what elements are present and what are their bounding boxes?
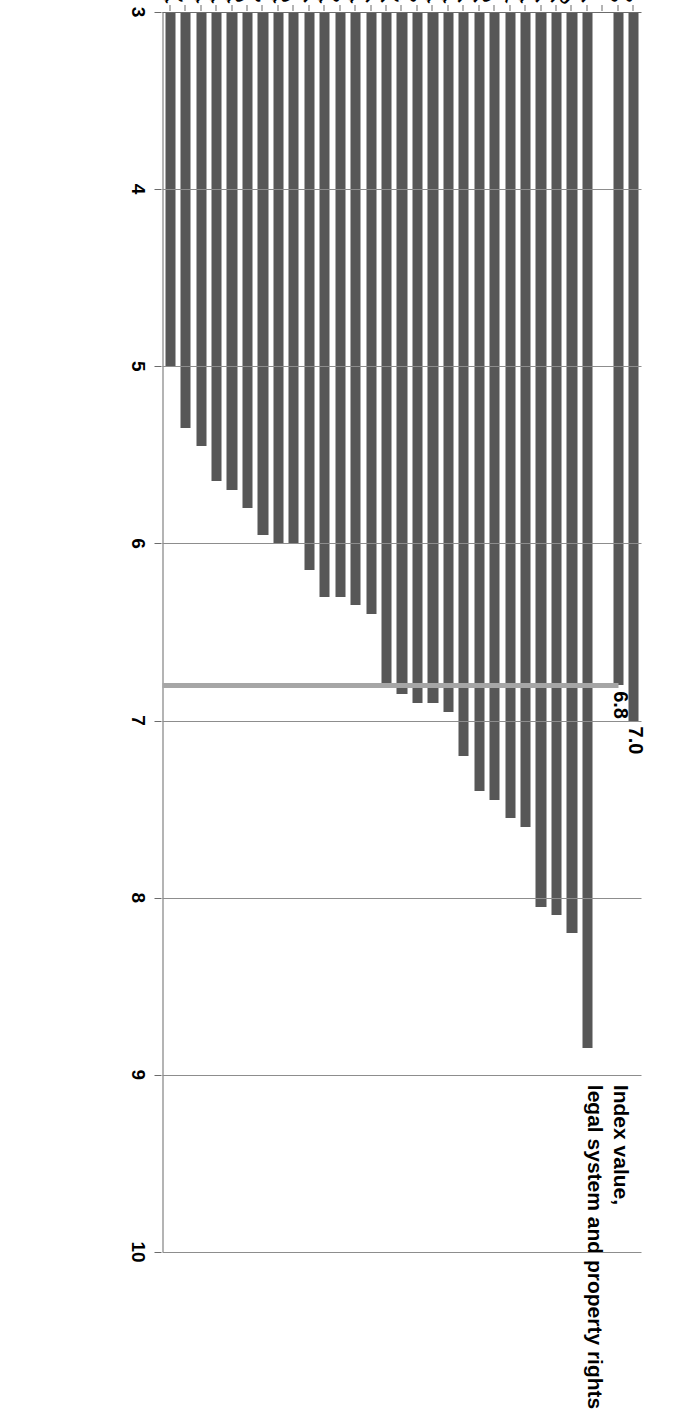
bar[interactable] — [350, 12, 360, 605]
bar-row — [304, 12, 314, 1252]
bar-row — [319, 12, 329, 1252]
bar[interactable] — [273, 12, 283, 543]
bar[interactable] — [304, 12, 314, 570]
bar[interactable] — [505, 12, 515, 818]
bar[interactable] — [335, 12, 345, 597]
bar[interactable] — [613, 12, 623, 685]
category-tick-mark — [339, 5, 340, 11]
gridline — [162, 1075, 641, 1076]
category-tick-mark — [416, 5, 417, 11]
category-tick-mark — [431, 5, 432, 11]
bar-row — [288, 12, 298, 1252]
category-tick-mark — [555, 5, 556, 11]
bar[interactable] — [535, 12, 545, 907]
bar-row — [226, 12, 236, 1252]
category-tick-mark — [292, 5, 293, 11]
category-tick-mark — [447, 5, 448, 11]
bar-row — [474, 12, 484, 1252]
bar-row — [165, 12, 175, 1252]
value-tick-label: 7 — [126, 701, 148, 741]
bar[interactable] — [474, 12, 484, 791]
gridline — [162, 366, 641, 367]
category-tick-mark — [509, 5, 510, 11]
bar-row — [196, 12, 206, 1252]
value-tick-mark — [154, 189, 161, 190]
bar-row — [335, 12, 345, 1252]
bar-row — [458, 12, 468, 1252]
bar[interactable] — [196, 12, 206, 446]
bar-row — [257, 12, 267, 1252]
category-axis-line — [162, 12, 163, 1252]
bar-row — [211, 12, 221, 1252]
value-tick-mark — [154, 898, 161, 899]
category-tick-mark — [586, 5, 587, 11]
category-tick-mark — [493, 5, 494, 11]
reference-line — [162, 683, 618, 688]
value-tick-mark — [154, 1075, 161, 1076]
bar[interactable] — [566, 12, 576, 933]
plot-area — [162, 12, 641, 1252]
bar[interactable] — [458, 12, 468, 756]
gridline — [162, 1252, 641, 1253]
category-tick-mark — [370, 5, 371, 11]
bar[interactable] — [396, 12, 406, 694]
bar[interactable] — [366, 12, 376, 614]
gridline — [162, 189, 641, 190]
bar[interactable] — [319, 12, 329, 597]
bar-row — [427, 12, 437, 1252]
bar-row — [628, 12, 638, 1252]
bar-row — [520, 12, 530, 1252]
bar[interactable] — [443, 12, 453, 712]
bar-data-label: 6.8 — [608, 691, 631, 719]
value-tick-label: 9 — [126, 1055, 148, 1095]
bar-row — [489, 12, 499, 1252]
category-tick-mark — [169, 5, 170, 11]
bar[interactable] — [211, 12, 221, 481]
category-tick-mark — [632, 5, 633, 11]
bar-row — [366, 12, 376, 1252]
bar[interactable] — [489, 12, 499, 800]
value-tick-mark — [154, 12, 161, 13]
category-tick-mark — [308, 5, 309, 11]
bar-row — [180, 12, 190, 1252]
bar[interactable] — [520, 12, 530, 827]
bar[interactable] — [381, 12, 391, 685]
gridline — [162, 12, 641, 13]
gridline — [162, 898, 641, 899]
value-tick-mark — [154, 721, 161, 722]
bar[interactable] — [288, 12, 298, 543]
category-tick-mark — [354, 5, 355, 11]
category-tick-mark — [478, 5, 479, 11]
value-tick-label: 8 — [126, 878, 148, 918]
gridline — [162, 721, 641, 722]
bar-row — [396, 12, 406, 1252]
category-tick-mark — [524, 5, 525, 11]
value-tick-label: 3 — [126, 0, 148, 32]
bar-row — [381, 12, 391, 1252]
bar-row — [350, 12, 360, 1252]
bar-row — [566, 12, 576, 1252]
category-tick-mark — [215, 5, 216, 11]
category-tick-mark — [601, 5, 602, 11]
category-tick-mark — [184, 5, 185, 11]
bar[interactable] — [412, 12, 422, 703]
category-tick-mark — [385, 5, 386, 11]
bar-row — [613, 12, 623, 1252]
bar[interactable] — [427, 12, 437, 703]
bar[interactable] — [226, 12, 236, 490]
bar[interactable] — [242, 12, 252, 508]
bar-row — [412, 12, 422, 1252]
category-tick-mark — [401, 5, 402, 11]
category-tick-mark — [277, 5, 278, 11]
bar[interactable] — [551, 12, 561, 915]
bar-row — [273, 12, 283, 1252]
category-tick-mark — [200, 5, 201, 11]
bar[interactable] — [582, 12, 592, 1048]
bar-row — [242, 12, 252, 1252]
value-tick-label: 5 — [126, 346, 148, 386]
category-tick-mark — [462, 5, 463, 11]
value-tick-label: 6 — [126, 523, 148, 563]
bar[interactable] — [257, 12, 267, 535]
